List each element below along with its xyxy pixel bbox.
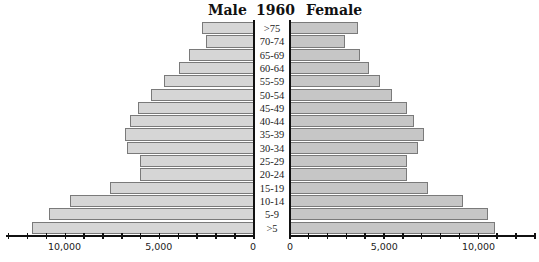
- male-title: Male: [208, 2, 247, 18]
- left-axis-line: [253, 20, 255, 236]
- age-group-label: 40-44: [255, 115, 289, 128]
- age-group-label: 15-19: [255, 182, 289, 195]
- female-bar: [290, 22, 358, 34]
- male-bar: [110, 182, 253, 194]
- female-bar: [290, 222, 495, 234]
- age-group-label: 55-59: [255, 75, 289, 88]
- x-tick: [440, 233, 442, 239]
- age-group-label: 45-49: [255, 102, 289, 115]
- x-tick-label-left: 0: [250, 241, 256, 252]
- male-bar: [202, 22, 253, 34]
- age-group-label: 10-14: [255, 195, 289, 208]
- female-bar: [290, 49, 360, 61]
- age-group-label: >5: [255, 222, 289, 235]
- x-tick: [402, 233, 404, 239]
- female-bar: [290, 155, 407, 167]
- x-tick: [140, 233, 142, 239]
- x-tick: [364, 233, 366, 239]
- male-bar: [140, 155, 253, 167]
- x-tick: [65, 233, 67, 239]
- x-tick: [83, 233, 85, 239]
- male-bar: [189, 49, 253, 61]
- age-group-label: 35-39: [255, 128, 289, 141]
- x-tick: [27, 233, 29, 239]
- female-bar: [290, 128, 424, 140]
- female-bar: [290, 62, 369, 74]
- x-tick: [459, 233, 461, 239]
- male-bar: [206, 35, 253, 47]
- x-tick-label-right: 10,000: [462, 241, 495, 252]
- x-tick: [196, 233, 198, 239]
- female-bar: [290, 208, 488, 220]
- male-bar: [151, 89, 253, 101]
- male-bar: [32, 222, 253, 234]
- x-tick: [327, 233, 329, 239]
- age-group-label: 60-64: [255, 62, 289, 75]
- x-tick: [215, 233, 217, 239]
- age-group-label: 65-69: [255, 49, 289, 62]
- female-bar: [290, 142, 418, 154]
- x-tick: [178, 233, 180, 239]
- age-group-label: 30-34: [255, 142, 289, 155]
- female-bar: [290, 195, 463, 207]
- x-tick-label-right: 5,000: [371, 241, 398, 252]
- x-tick: [234, 233, 236, 239]
- left-x-axis: [6, 235, 254, 237]
- x-tick: [46, 233, 48, 239]
- male-bar: [179, 62, 253, 74]
- male-bar: [125, 128, 253, 140]
- male-bar: [127, 142, 253, 154]
- x-tick: [515, 233, 517, 239]
- female-bar: [290, 35, 345, 47]
- male-bar: [49, 208, 253, 220]
- x-tick: [121, 233, 123, 239]
- male-bar: [70, 195, 253, 207]
- female-bar: [290, 102, 407, 114]
- female-bar: [290, 168, 407, 180]
- female-bar: [290, 89, 392, 101]
- x-tick: [308, 233, 310, 239]
- age-group-label: 25-29: [255, 155, 289, 168]
- x-tick: [534, 233, 536, 239]
- female-bar: [290, 182, 428, 194]
- age-group-label: 70-74: [255, 35, 289, 48]
- female-bar: [290, 115, 414, 127]
- x-tick: [496, 233, 498, 239]
- female-bar: [290, 75, 380, 87]
- x-tick-label-left: 5,000: [145, 241, 172, 252]
- x-tick-label-left: 10,000: [48, 241, 81, 252]
- x-tick: [159, 233, 161, 239]
- age-group-label: 50-54: [255, 89, 289, 102]
- age-group-label: 5-9: [255, 208, 289, 221]
- male-bar: [138, 102, 253, 114]
- x-tick: [253, 233, 255, 239]
- year-title: 1960: [256, 2, 295, 18]
- x-tick: [8, 233, 10, 239]
- right-axis-line: [289, 20, 291, 236]
- age-group-label: >75: [255, 22, 289, 35]
- x-tick: [289, 233, 291, 239]
- x-tick: [478, 233, 480, 239]
- age-group-label: 20-24: [255, 168, 289, 181]
- population-pyramid-chart: Male 1960 Female >7570-7465-6960-6455-59…: [0, 0, 539, 262]
- x-tick: [102, 233, 104, 239]
- x-tick: [421, 233, 423, 239]
- x-tick: [346, 233, 348, 239]
- x-tick: [383, 233, 385, 239]
- x-tick-label-right: 0: [287, 241, 293, 252]
- male-bar: [164, 75, 253, 87]
- female-title: Female: [306, 2, 362, 18]
- male-bar: [140, 168, 253, 180]
- male-bar: [130, 115, 253, 127]
